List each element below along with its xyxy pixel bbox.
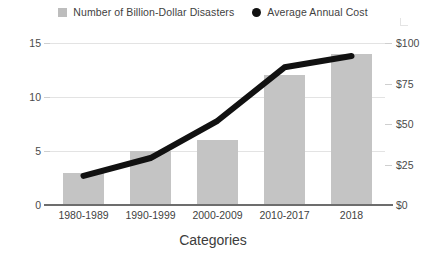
right-axis-tick-label: $75 [396,78,414,89]
category-label: 1990-1999 [125,209,175,221]
line-path [84,56,352,176]
right-tick-mark [385,84,392,85]
left-axis-tick-label: 0 [35,200,41,211]
legend-label-bars: Number of Billion-Dollar Disasters [73,6,234,18]
chart-container: Number of Billion-Dollar Disasters Avera… [0,0,426,264]
right-tick-mark [385,165,392,166]
legend-dot-swatch-icon [252,8,261,17]
category-label: 2000-2009 [192,209,242,221]
left-axis-tick-label: 15 [29,38,41,49]
category-label: 2010-2017 [259,209,309,221]
left-axis-tick-label: 5 [35,146,41,157]
x-axis-title: Categories [0,232,426,248]
right-axis-tick-label: $0 [396,200,408,211]
chart-legend: Number of Billion-Dollar Disasters Avera… [0,6,426,18]
category-label: 2018 [340,209,363,221]
line-series [50,43,385,205]
scan-artifact [400,18,408,26]
right-tick-mark [385,124,392,125]
x-axis-line [44,204,393,206]
left-axis-tick-label: 10 [29,92,41,103]
right-axis-tick-label: $25 [396,159,414,170]
category-label: 1980-1989 [58,209,108,221]
legend-item-bars[interactable]: Number of Billion-Dollar Disasters [58,6,234,18]
x-axis-category-labels: 1980-19891990-19992000-20092010-20172018 [50,209,385,223]
legend-item-line[interactable]: Average Annual Cost [252,6,367,18]
right-axis-tick-label: $50 [396,119,414,130]
legend-label-line: Average Annual Cost [267,6,367,18]
right-tick-mark [385,43,392,44]
legend-square-swatch-icon [58,8,67,17]
plot-area: 051015 $0$25$50$75$100 [50,43,385,205]
right-axis-tick-label: $100 [396,38,419,49]
